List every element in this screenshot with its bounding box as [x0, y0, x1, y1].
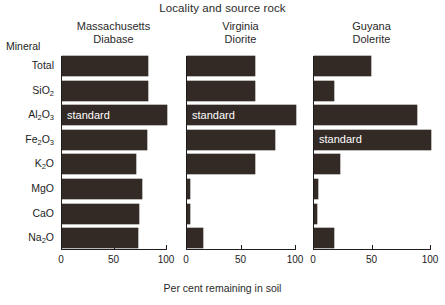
bar-guyana-na2o — [314, 228, 334, 248]
mineral-label-na2o: Na2O — [0, 231, 54, 243]
bar-virginia-k2o — [187, 154, 255, 174]
x-tick — [241, 245, 242, 249]
bar-guyana-sio2 — [314, 81, 334, 101]
mineral-label-k2o: K2O — [0, 157, 54, 169]
bar-guyana-mgo — [314, 179, 318, 199]
bar-massachusetts-al2o3 — [62, 105, 167, 125]
panel-x-axis — [313, 249, 431, 250]
bar-guyana-k2o — [314, 154, 340, 174]
bar-massachusetts-sio2 — [62, 81, 148, 101]
x-tick — [372, 245, 373, 249]
bar-massachusetts-fe2o3 — [62, 130, 147, 150]
panel-locality: Guyana — [273, 20, 445, 33]
bar-massachusetts-mgo — [62, 179, 142, 199]
x-axis-label: Per cent remaining in soil — [0, 282, 445, 294]
bar-virginia-fe2o3 — [187, 130, 274, 150]
bar-virginia-al2o3 — [187, 105, 296, 125]
x-tick-label: 0 — [293, 254, 333, 265]
bar-virginia-cao — [187, 204, 189, 224]
panel-x-axis — [61, 249, 167, 250]
panel-header-guyana: GuyanaDolerite — [273, 20, 445, 46]
x-tick-label: 0 — [166, 254, 206, 265]
x-tick-label: 100 — [410, 254, 445, 265]
x-tick — [166, 245, 167, 249]
bar-virginia-mgo — [187, 179, 189, 199]
bar-massachusetts-na2o — [62, 228, 138, 248]
x-tick-label: 50 — [94, 254, 134, 265]
mineral-label-fe2o3: Fe2O3 — [0, 133, 54, 145]
bar-virginia-total — [187, 56, 255, 76]
chart-figure: Locality and source rock Mineral TotalSi… — [0, 0, 445, 305]
mineral-label-sio2: SiO2 — [0, 84, 54, 96]
mineral-label-mgo: MgO — [0, 182, 54, 194]
bar-guyana-al2o3 — [314, 105, 417, 125]
bar-guyana-fe2o3 — [314, 130, 431, 150]
panel-rock: Dolerite — [273, 33, 445, 46]
panel-x-axis — [186, 249, 296, 250]
x-tick-label: 50 — [352, 254, 392, 265]
mineral-label-al2o3: Al2O3 — [0, 108, 54, 120]
mineral-label-total: Total — [0, 59, 54, 71]
bar-massachusetts-total — [62, 56, 148, 76]
x-tick-label: 0 — [41, 254, 81, 265]
mineral-label-cao: CaO — [0, 207, 54, 219]
bar-massachusetts-k2o — [62, 154, 136, 174]
x-tick — [295, 245, 296, 249]
bar-massachusetts-cao — [62, 204, 139, 224]
x-tick — [430, 245, 431, 249]
bar-virginia-sio2 — [187, 81, 255, 101]
x-tick-label: 50 — [221, 254, 261, 265]
bar-guyana-total — [314, 56, 370, 76]
bar-virginia-na2o — [187, 228, 202, 248]
chart-title: Locality and source rock — [0, 2, 445, 14]
bar-guyana-cao — [314, 204, 316, 224]
